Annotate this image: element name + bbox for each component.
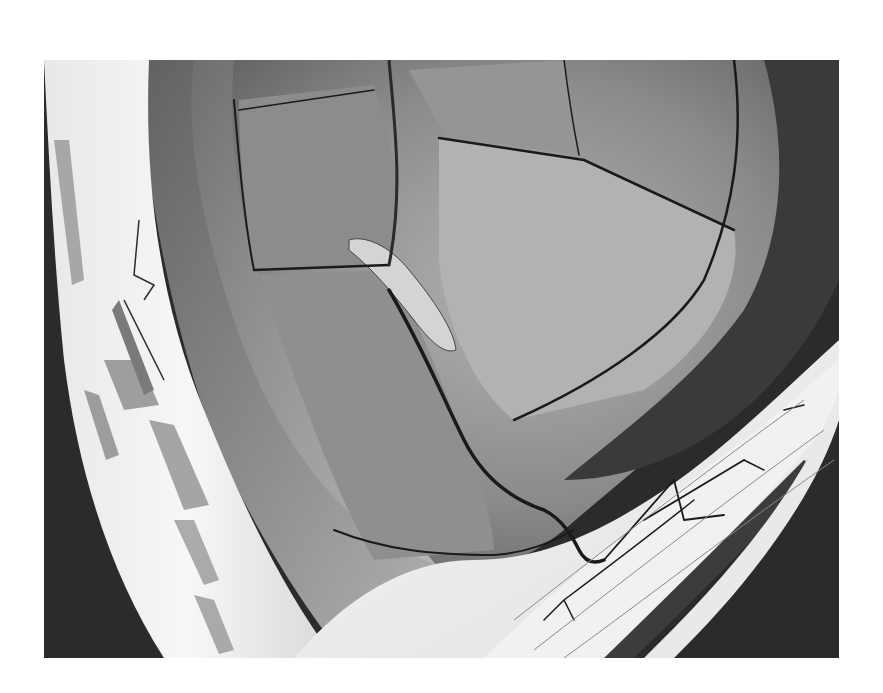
micrograph-image [44,60,839,658]
